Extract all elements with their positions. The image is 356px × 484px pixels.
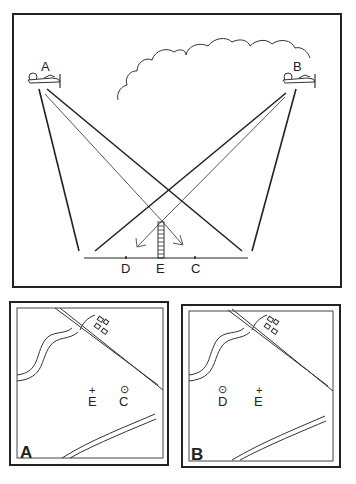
map-a-point-c: C: [119, 395, 128, 408]
aircraft-a-icon: [28, 73, 60, 88]
map-b-panel-label: B: [191, 446, 203, 463]
ground-line: [84, 256, 248, 259]
map-a-point-e: E: [88, 395, 97, 408]
map-b-point-d: D: [218, 395, 227, 408]
sight-lines-a: [39, 89, 242, 251]
map-a-panel-label: A: [20, 444, 32, 461]
ground-point-d: D: [121, 262, 130, 275]
map-b-point-e: E: [254, 395, 263, 408]
main-frame: [13, 14, 341, 287]
diagram-canvas: [0, 0, 356, 484]
aircraft-b-icon: [283, 73, 315, 88]
ground-point-e: E: [156, 262, 165, 275]
cloud-icon: [118, 39, 310, 100]
aircraft-a-label: A: [41, 60, 50, 73]
aircraft-b-label: B: [293, 60, 302, 73]
tower-icon: [158, 222, 164, 258]
ground-point-c: C: [191, 262, 200, 275]
sight-lines-b: [95, 89, 296, 251]
